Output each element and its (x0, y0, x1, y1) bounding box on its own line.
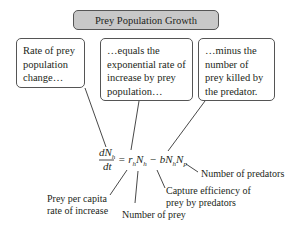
connector-lines (0, 0, 302, 234)
label-number-of-prey: Number of prey (122, 209, 186, 221)
label-number-of-predators: Number of predators (201, 168, 284, 180)
label-per-capita-2: rate of increase (47, 205, 108, 217)
label-per-capita-1: Prey per capita (47, 193, 107, 205)
label-capture-efficiency-2: prey by predators (166, 197, 236, 209)
label-capture-efficiency-1: Capture efficiency of (166, 185, 251, 197)
equation: dNh dt = rhNh − bNhNp (98, 146, 208, 172)
eq-rhs: = rhNh − bNhNp (118, 153, 187, 168)
eq-denominator: dt (103, 160, 112, 172)
eq-numerator: dNh (99, 146, 115, 161)
